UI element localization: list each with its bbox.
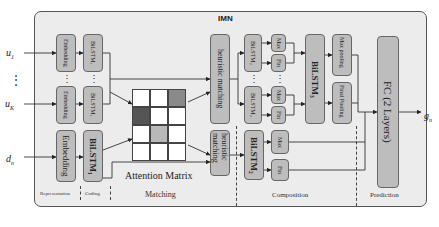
connection-wires bbox=[0, 0, 439, 227]
